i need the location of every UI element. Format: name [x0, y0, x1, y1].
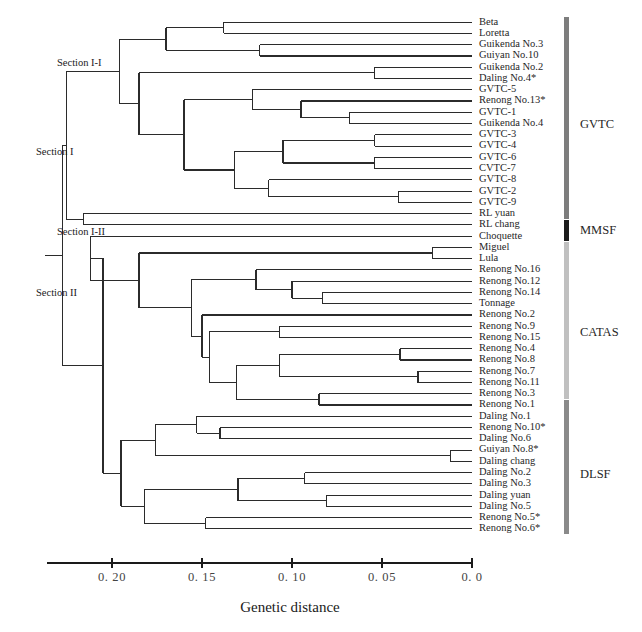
leaf-label: Renong No.8 [479, 353, 535, 364]
group-labels: GVTCMMSFCATASDLSF [580, 117, 619, 481]
leaf-label: Renong No.10* [479, 421, 546, 432]
axis-tick-label: 0. 15 [188, 570, 216, 584]
section-label-section-ii: Section II [36, 287, 78, 298]
axis-tick-label: 0. 0 [461, 570, 482, 584]
leaf-label: Renong No.15 [479, 331, 540, 342]
leaf-label: Miguel [479, 241, 509, 252]
leaf-label: Renong No.2 [479, 308, 535, 319]
group-label-gvtc: GVTC [580, 117, 614, 131]
leaf-label: Daling No.4* [479, 72, 536, 83]
leaf-label: GVTC-3 [479, 128, 516, 139]
section-labels: Section I-ISection ISection I-IISection … [36, 57, 106, 298]
leaf-label: GVTC-5 [479, 83, 516, 94]
section-label-section-i-i: Section I-I [57, 57, 102, 68]
leaf-label: Daling yuan [479, 489, 531, 500]
leaf-label: Daling chang [479, 455, 536, 466]
leaf-label: Renong No.7 [479, 365, 535, 376]
section-label-section-i: Section I [36, 146, 74, 157]
leaf-label: Daling No.2 [479, 466, 531, 477]
leaf-label: Loretta [479, 27, 510, 38]
leaf-label: Lula [479, 252, 499, 263]
group-label-mmsf: MMSF [580, 223, 616, 237]
leaf-label: Choquette [479, 230, 522, 241]
group-bar-catas [564, 242, 569, 398]
dendrogram-canvas: BetaLorettaGuikenda No.3Guiyan No.10Guik… [0, 0, 642, 632]
group-label-catas: CATAS [580, 325, 619, 339]
axis-tick-label: 0. 20 [98, 570, 126, 584]
leaf-label: Renong No.16 [479, 263, 540, 274]
leaf-label: Renong No.13* [479, 94, 546, 105]
leaf-label: GVTC-9 [479, 196, 516, 207]
group-bar-mmsf [564, 220, 569, 241]
group-bars [564, 17, 569, 534]
leaf-label: Daling No.6 [479, 432, 531, 443]
genetic-distance-axis: 0. 200. 150. 100. 050. 0Genetic distance [47, 558, 483, 615]
leaf-label: GVTC-6 [479, 151, 516, 162]
leaf-label: Renong No.14 [479, 286, 541, 297]
leaf-label: Renong No.3 [479, 387, 535, 398]
leaf-label: Guikenda No.4 [479, 117, 544, 128]
leaf-label: Renong No.5* [479, 511, 540, 522]
leaf-label: Guikenda No.2 [479, 61, 543, 72]
leaf-label: Daling No.1 [479, 410, 531, 421]
leaf-label: Renong No.4 [479, 342, 536, 353]
axis-tick-label: 0. 10 [278, 570, 306, 584]
leaf-label: RL chang [479, 218, 520, 229]
leaf-label: Beta [479, 16, 499, 27]
leaf-label: GVTC-1 [479, 106, 516, 117]
axis-tick-label: 0. 05 [368, 570, 396, 584]
leaf-label: CVTC-7 [479, 162, 516, 173]
group-bar-gvtc [564, 17, 569, 218]
leaf-label: Guiyan No.8* [479, 443, 539, 454]
leaf-label: Guiyan No.10 [479, 49, 539, 60]
leaf-label: Renong No.12 [479, 275, 540, 286]
dendrogram-figure: BetaLorettaGuikenda No.3Guiyan No.10Guik… [0, 0, 642, 632]
leaf-label: GVTC-4 [479, 139, 517, 150]
tree-branches [45, 22, 473, 529]
leaf-label: Daling No.5 [479, 500, 531, 511]
section-label-section-i-ii: Section I-II [57, 226, 106, 237]
leaf-label: Renong No.9 [479, 320, 535, 331]
leaf-label: RL yuan [479, 207, 516, 218]
group-label-dlsf: DLSF [580, 467, 611, 481]
leaf-labels: BetaLorettaGuikenda No.3Guiyan No.10Guik… [479, 16, 546, 534]
leaf-label: Renong No.11 [479, 376, 540, 387]
leaf-label: Daling No.3 [479, 477, 531, 488]
leaf-label: GVTC-8 [479, 173, 516, 184]
leaf-label: Renong No.6* [479, 522, 540, 533]
leaf-label: GVTC-2 [479, 185, 516, 196]
group-bar-dlsf [564, 400, 569, 534]
axis-title: Genetic distance [240, 599, 340, 615]
leaf-label: Tonnage [479, 297, 515, 308]
leaf-label: Renong No.1 [479, 398, 535, 409]
leaf-label: Guikenda No.3 [479, 38, 543, 49]
